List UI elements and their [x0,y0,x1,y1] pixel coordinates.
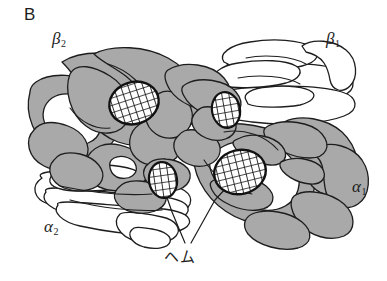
hemoglobin-structure-figure: B β2 β1 α1 α2 ヘム [0,0,387,281]
panel-letter-label: B [24,6,36,23]
beta1-symbol: β [326,29,334,48]
subunit-label-alpha2: α2 [44,218,58,235]
subunit-label-beta2: β2 [52,30,65,47]
beta1-subscript: 1 [335,38,340,49]
alpha1-subscript: 1 [361,186,366,197]
subunit-label-beta1: β1 [326,30,339,47]
beta2-symbol: β [52,29,60,48]
alpha2-subscript: 2 [53,226,58,237]
alpha2-symbol: α [44,217,53,236]
alpha1-symbol: α [352,177,361,196]
subunit-label-alpha1: α1 [352,178,366,195]
beta2-subscript: 2 [61,38,66,49]
heme-label: ヘム [164,250,196,265]
